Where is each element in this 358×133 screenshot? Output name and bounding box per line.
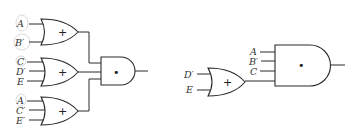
or-gate-1: A B′ + (14, 15, 78, 50)
input-label-e: E (185, 84, 193, 95)
left-circuit: A B′ + C D′ E + A C′ E′ (14, 15, 148, 126)
or-symbol: + (58, 26, 67, 39)
input-label-e-prime: E′ (15, 115, 26, 126)
input-label-b-prime: B′ (14, 37, 25, 48)
input-label-c: C (250, 66, 258, 77)
right-circuit: A B′ C D′ E + • (183, 45, 345, 96)
or-symbol: + (223, 76, 232, 89)
and-gate-left: • (101, 57, 148, 85)
or-gate-right: D′ E + (183, 68, 275, 96)
or-symbol: + (58, 66, 67, 79)
and-gate-right: • (275, 45, 345, 86)
input-label-d-prime: D′ (183, 69, 195, 80)
or-gate-3: A C′ E′ + (15, 94, 78, 126)
input-label-e: E (16, 76, 24, 87)
or-symbol: + (58, 105, 67, 118)
or-gate-2: C D′ E + (15, 56, 78, 87)
logic-diagram: A B′ + C D′ E + A C′ E′ (0, 0, 358, 133)
and-symbol: • (298, 59, 305, 72)
input-label-a: A (16, 18, 24, 29)
and-symbol: • (113, 66, 120, 79)
